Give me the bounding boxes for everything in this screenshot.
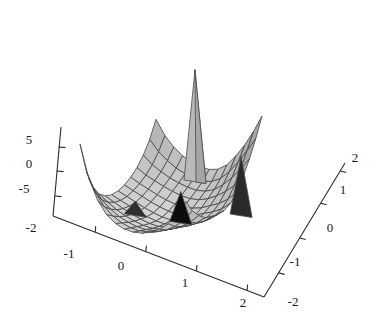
y-axis-tick-label-2: 0 xyxy=(327,220,334,235)
z-axis-tick-label-1: 0 xyxy=(26,156,33,171)
surface-plot-figure: 50-5-2-1012-2-1012 xyxy=(0,0,380,323)
y-axis-tick-label-0: -2 xyxy=(288,294,299,309)
y-axis-tick-label-4: 2 xyxy=(352,150,359,165)
z-tick-mark-0 xyxy=(59,147,66,148)
x-tick-mark-2 xyxy=(196,265,197,271)
x-axis-tick-label-4: 2 xyxy=(240,295,247,310)
x-tick-mark-0 xyxy=(95,226,96,232)
x-axis-tick-label-2: 0 xyxy=(118,258,125,273)
y-axis-tick-label-3: 1 xyxy=(340,182,347,197)
x-tick-mark-1 xyxy=(146,246,147,252)
y-axis-tick-label-1: -1 xyxy=(290,254,301,269)
x-tick-mark-3 xyxy=(247,285,248,291)
z-axis-tick-label-0: 5 xyxy=(26,132,33,147)
z-tick-mark-1 xyxy=(57,171,64,172)
x-axis-tick-label-0: -2 xyxy=(26,220,37,235)
x-axis-tick-label-1: -1 xyxy=(64,246,75,261)
surface-plot-canvas: 50-5-2-1012-2-1012 xyxy=(0,0,380,323)
z-axis-tick-label-2: -5 xyxy=(19,181,30,196)
x-axis-tick-label-3: 1 xyxy=(182,275,189,290)
z-tick-mark-2 xyxy=(55,196,62,197)
